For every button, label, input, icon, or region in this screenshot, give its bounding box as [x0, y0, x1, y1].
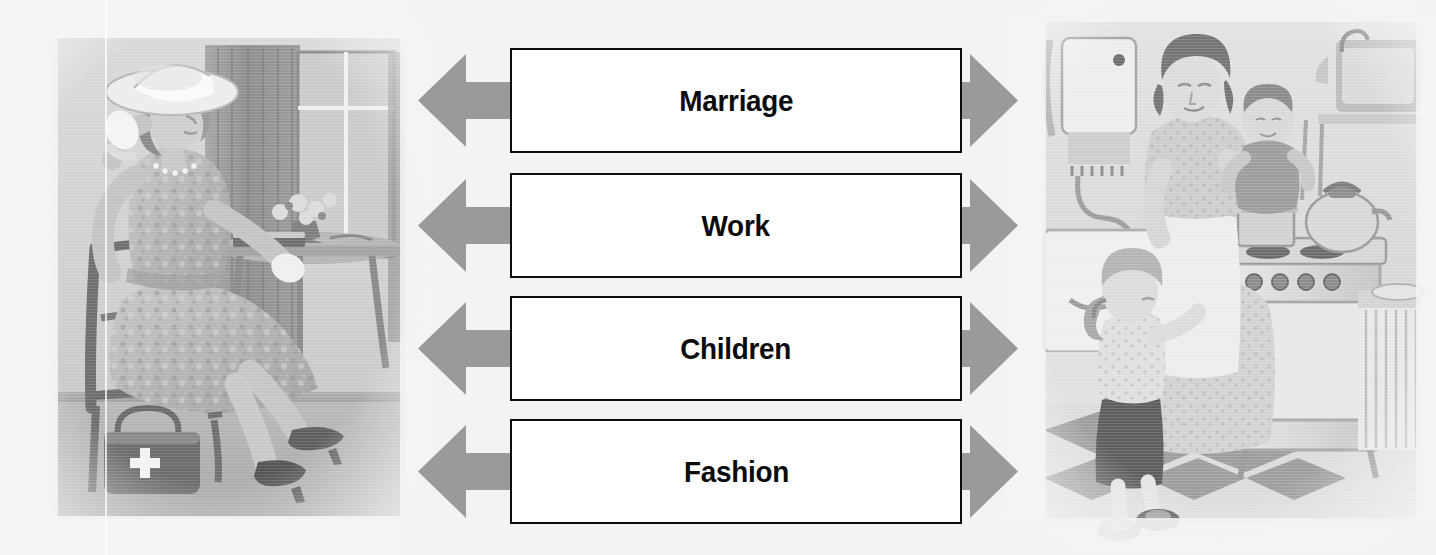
comparison-row-fashion: Fashion: [418, 419, 1018, 524]
arrow-rows-container: Marriage Work Children: [0, 0, 1436, 555]
comparison-row-work: Work: [418, 173, 1018, 278]
label-box-fashion[interactable]: Fashion: [510, 419, 962, 524]
label-text-children: Children: [681, 332, 792, 366]
comparison-row-children: Children: [418, 296, 1018, 401]
label-text-marriage: Marriage: [679, 84, 793, 118]
label-box-children[interactable]: Children: [510, 296, 962, 401]
label-box-marriage[interactable]: Marriage: [510, 48, 962, 153]
label-box-work[interactable]: Work: [510, 173, 962, 278]
diagram-canvas: Vintage grayscale illustration of an ele…: [0, 0, 1436, 555]
label-text-work: Work: [702, 209, 770, 243]
comparison-row-marriage: Marriage: [418, 48, 1018, 153]
label-text-fashion: Fashion: [683, 455, 788, 489]
